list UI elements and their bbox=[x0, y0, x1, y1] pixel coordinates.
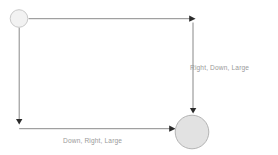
small-circle-node[interactable] bbox=[10, 10, 28, 28]
edge-label-right-down-large: Right, Down, Large bbox=[190, 64, 249, 72]
arrowhead-right-top bbox=[189, 16, 195, 22]
arrowhead-down-into-large-node bbox=[190, 108, 196, 113]
edge-label-down-right-large: Down, Right, Large bbox=[63, 137, 122, 145]
arrowhead-right-into-large-node bbox=[169, 126, 175, 132]
diagram-canvas: Right, Down, Large Down, Right, Large bbox=[0, 0, 278, 155]
edge-right-down-large[interactable]: Right, Down, Large bbox=[29, 16, 250, 114]
large-circle-node[interactable] bbox=[175, 115, 209, 149]
edge-down-right-large[interactable]: Down, Right, Large bbox=[16, 28, 176, 146]
arrowhead-down-bottom-left bbox=[16, 119, 22, 124]
diagram-svg: Right, Down, Large Down, Right, Large bbox=[0, 0, 278, 155]
